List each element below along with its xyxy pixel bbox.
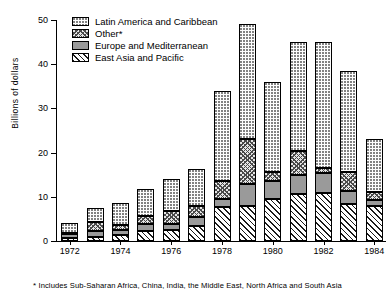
bar-1980 (264, 82, 281, 241)
y-tick-mark (51, 241, 56, 242)
y-tick-mark (51, 153, 56, 154)
footnote-text: Includes Sub-Saharan Africa, China, Indi… (38, 281, 341, 290)
bar-segment-1973-latin-america (87, 208, 104, 223)
bar-segment-1978-europe (214, 199, 231, 207)
legend-label-east-asia: East Asia and Pacific (95, 52, 184, 63)
y-tick-mark (51, 108, 56, 109)
bar-1982 (315, 42, 332, 241)
bar-1977 (188, 169, 205, 241)
bar-segment-1977-latin-america (188, 169, 205, 206)
bar-segment-1981-latin-america (290, 42, 307, 151)
bar-segment-1972-latin-america (61, 223, 78, 233)
x-tick-mark (222, 241, 223, 245)
bar-segment-1984-europe (366, 200, 383, 206)
x-tick-label: 1982 (314, 246, 334, 256)
bar-segment-1974-east-asia (112, 235, 129, 241)
bar-1978 (214, 91, 231, 241)
bar-segment-1975-europe (137, 224, 154, 231)
x-axis-line (56, 241, 386, 242)
bar-segment-1984-other (366, 192, 383, 200)
bar-segment-1976-east-asia (163, 230, 180, 241)
bar-segment-1976-europe (163, 224, 180, 229)
bar-segment-1984-latin-america (366, 139, 383, 192)
legend-swatch-latin-america-icon (72, 17, 89, 26)
y-tick-label: 50 (38, 15, 48, 25)
bar-segment-1974-europe (112, 230, 129, 235)
bar-1979 (239, 24, 256, 241)
bar-1974 (112, 203, 129, 241)
bar-1976 (163, 179, 180, 241)
legend-swatch-europe-icon (72, 41, 89, 50)
x-tick-label: 1978 (212, 246, 232, 256)
bar-segment-1982-latin-america (315, 42, 332, 168)
bar-segment-1973-east-asia (87, 237, 104, 241)
bar-segment-1983-latin-america (340, 71, 357, 172)
y-axis-title: Billions of dollars (10, 33, 20, 153)
y-tick-mark (51, 64, 56, 65)
bar-segment-1982-east-asia (315, 193, 332, 241)
y-tick-label: 20 (38, 148, 48, 158)
bar-segment-1975-east-asia (137, 231, 154, 241)
bar-segment-1972-east-asia (61, 238, 78, 241)
bar-segment-1976-latin-america (163, 179, 180, 211)
bar-segment-1980-latin-america (264, 82, 281, 172)
bar-segment-1976-other (163, 211, 180, 224)
x-tick-label: 1976 (161, 246, 181, 256)
bar-segment-1981-east-asia (290, 194, 307, 241)
x-tick-mark (273, 241, 274, 245)
bar-segment-1974-other (112, 225, 129, 230)
bar-segment-1979-europe (239, 184, 256, 206)
bar-segment-1981-europe (290, 175, 307, 194)
bar-segment-1979-latin-america (239, 24, 256, 139)
bar-segment-1977-other (188, 206, 205, 217)
y-tick-mark (51, 20, 56, 21)
bar-segment-1979-other (239, 139, 256, 183)
bar-segment-1973-other (87, 222, 104, 231)
y-axis-line (56, 20, 57, 241)
y-tick-label: 0 (43, 236, 48, 246)
bar-segment-1977-east-asia (188, 226, 205, 241)
y-tick-label: 10 (38, 192, 48, 202)
bar-segment-1984-east-asia (366, 206, 383, 241)
x-tick-mark (70, 241, 71, 245)
legend: Latin America and Caribbean Other* Europ… (72, 16, 218, 63)
footnote-marker: * (33, 281, 36, 290)
chart-footnote: * Includes Sub-Saharan Africa, China, In… (33, 281, 342, 290)
bar-segment-1979-east-asia (239, 206, 256, 241)
bar-segment-1983-east-asia (340, 204, 357, 241)
legend-item-other: Other* (72, 28, 218, 39)
bar-segment-1975-other (137, 216, 154, 224)
chart-root: Billions of dollars 01020304050 19721974… (0, 0, 390, 294)
legend-label-europe: Europe and Mediterranean (95, 40, 208, 51)
x-tick-mark (120, 241, 121, 245)
x-tick-label: 1980 (263, 246, 283, 256)
bar-segment-1983-europe (340, 191, 357, 205)
bar-segment-1972-europe (61, 234, 78, 238)
bar-1984 (366, 139, 383, 241)
bar-segment-1980-east-asia (264, 199, 281, 241)
bar-segment-1981-other (290, 151, 307, 175)
bar-segment-1974-latin-america (112, 203, 129, 224)
bar-segment-1975-latin-america (137, 189, 154, 216)
y-tick-label: 40 (38, 59, 48, 69)
bar-segment-1980-other (264, 172, 281, 181)
bar-segment-1983-other (340, 172, 357, 191)
legend-item-east-asia: East Asia and Pacific (72, 52, 218, 63)
bar-1973 (87, 208, 104, 241)
x-tick-label: 1984 (364, 246, 384, 256)
legend-swatch-east-asia-icon (72, 53, 89, 62)
y-tick-mark (51, 197, 56, 198)
bar-1972 (61, 223, 78, 241)
bar-segment-1978-other (214, 181, 231, 199)
x-tick-label: 1972 (60, 246, 80, 256)
bar-segment-1973-europe (87, 231, 104, 237)
x-tick-mark (374, 241, 375, 245)
bar-1981 (290, 42, 307, 241)
bar-segment-1978-east-asia (214, 207, 231, 241)
legend-label-latin-america: Latin America and Caribbean (95, 16, 218, 27)
y-tick-label: 30 (38, 103, 48, 113)
bar-1983 (340, 71, 357, 241)
legend-item-europe: Europe and Mediterranean (72, 40, 218, 51)
bar-segment-1977-europe (188, 217, 205, 226)
bar-segment-1982-other (315, 168, 332, 172)
